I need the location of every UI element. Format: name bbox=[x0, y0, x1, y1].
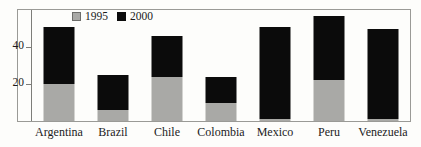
bar-group bbox=[140, 10, 194, 121]
bar-segment-1995 bbox=[152, 77, 183, 121]
bar-segment-2000 bbox=[98, 75, 129, 110]
bar-segment-1995 bbox=[98, 110, 129, 121]
chart-legend: 1995 2000 bbox=[72, 11, 153, 23]
bar-segment-1995 bbox=[314, 80, 345, 121]
x-axis-label-chile: Chile bbox=[140, 124, 194, 140]
plot-area bbox=[32, 10, 410, 121]
black-swatch-icon bbox=[117, 12, 126, 21]
bar-group bbox=[194, 10, 248, 121]
bar-segment-1995 bbox=[368, 119, 399, 121]
chart-figure: 4020 1995 2000 ArgentinaBrazilChileColom… bbox=[0, 0, 421, 147]
gray-swatch-icon bbox=[72, 12, 81, 21]
bar-group bbox=[86, 10, 140, 121]
stacked-bar bbox=[368, 29, 399, 121]
bar-segment-2000 bbox=[44, 27, 75, 84]
x-axis-label-peru: Peru bbox=[302, 124, 356, 140]
x-axis-label-brazil: Brazil bbox=[86, 124, 140, 140]
y-axis-tick-label: 40 bbox=[0, 39, 24, 51]
stacked-bar bbox=[206, 77, 237, 121]
stacked-bar bbox=[44, 27, 75, 121]
x-axis-label-venezuela: Venezuela bbox=[356, 124, 410, 140]
bar-segment-1995 bbox=[44, 84, 75, 121]
x-axis-label-mexico: Mexico bbox=[248, 124, 302, 140]
bar-segment-2000 bbox=[368, 29, 399, 120]
bar-group bbox=[302, 10, 356, 121]
bar-segment-2000 bbox=[152, 36, 183, 77]
legend-label-1995: 1995 bbox=[85, 11, 108, 23]
bar-group bbox=[248, 10, 302, 121]
bar-group bbox=[32, 10, 86, 121]
legend-item-1995: 1995 bbox=[72, 11, 108, 23]
x-axis-label-colombia: Colombia bbox=[194, 124, 248, 140]
legend-item-2000: 2000 bbox=[117, 11, 153, 23]
stacked-bar bbox=[314, 16, 345, 121]
stacked-bar bbox=[260, 27, 291, 121]
y-axis-tick-label: 20 bbox=[0, 76, 24, 88]
bar-segment-2000 bbox=[260, 27, 291, 120]
bar-segment-2000 bbox=[206, 77, 237, 103]
bar-segment-1995 bbox=[260, 119, 291, 121]
stacked-bar bbox=[98, 75, 129, 121]
bar-segment-1995 bbox=[206, 103, 237, 122]
bar-group bbox=[356, 10, 410, 121]
x-axis-labels: ArgentinaBrazilChileColombiaMexicoPeruVe… bbox=[32, 124, 410, 144]
stacked-bar bbox=[152, 36, 183, 121]
legend-label-2000: 2000 bbox=[130, 11, 153, 23]
x-axis-label-argentina: Argentina bbox=[32, 124, 86, 140]
bar-segment-2000 bbox=[314, 16, 345, 81]
